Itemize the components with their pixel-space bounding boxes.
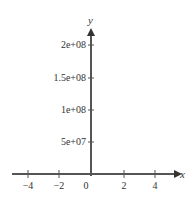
- y-tick-label: 2e+08: [61, 39, 86, 50]
- x-tick-label: 0: [84, 180, 89, 191]
- y-tick-label: 5e+07: [61, 136, 86, 147]
- chart: x y −4 −2 0 2 4 5e+07 1e+08 1.5e+08 2e+0…: [0, 0, 194, 200]
- x-tick-label: −4: [23, 180, 34, 191]
- y-axis-label: y: [87, 14, 93, 26]
- x-axis-label: x: [179, 168, 185, 180]
- y-tick-label: 1e+08: [61, 104, 86, 115]
- x-tick-label: 4: [153, 180, 158, 191]
- y-ticks: 5e+07 1e+08 1.5e+08 2e+08: [53, 39, 94, 147]
- x-tick-label: −2: [54, 180, 65, 191]
- y-tick-label: 1.5e+08: [53, 72, 86, 83]
- x-tick-label: 2: [122, 180, 127, 191]
